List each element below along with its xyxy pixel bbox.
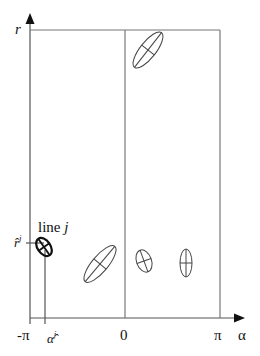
line-j-prefix: line — [38, 219, 64, 235]
ellipse-top — [128, 28, 168, 73]
y-axis-label: r — [15, 21, 21, 37]
x-tick-max-label: π — [214, 327, 222, 343]
alpha-hat-superscript: j — [53, 329, 57, 339]
diagram-canvas: r α -π 0 π α̂j r̂j line j — [0, 0, 260, 356]
y-axis-arrow-icon — [26, 13, 35, 24]
ellipse-lower-middle — [133, 248, 155, 275]
line-j-label: line j — [38, 219, 68, 235]
x-axis-arrow-icon — [234, 314, 245, 323]
x-axis-label: α — [238, 327, 246, 343]
x-tick-min-label: -π — [17, 327, 30, 343]
r-hat-superscript: j — [18, 233, 22, 243]
x-tick-zero-label: 0 — [120, 327, 128, 343]
ellipse-lower-right — [180, 249, 192, 277]
r-hat-label: r̂j — [14, 233, 22, 250]
ellipse-lower-left — [79, 241, 121, 287]
alpha-hat-label: α̂j — [47, 329, 59, 346]
ellipse-line-j — [33, 235, 55, 259]
